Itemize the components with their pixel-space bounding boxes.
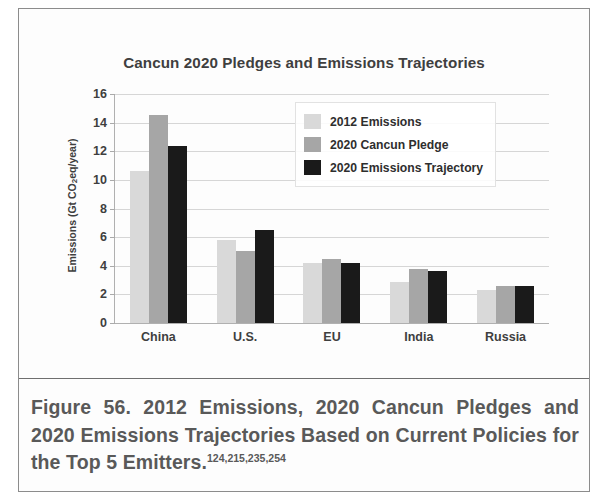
bar (409, 269, 428, 323)
bar (428, 271, 447, 323)
legend-label-cancun-pledge: 2020 Cancun Pledge (330, 138, 449, 152)
bar-group: China (115, 94, 202, 323)
caption-divider (19, 378, 589, 379)
legend-item-cancun-pledge: 2020 Cancun Pledge (304, 133, 483, 156)
x-axis-tick-label: U.S. (202, 323, 289, 344)
bar-group: U.S. (202, 94, 289, 323)
legend-item-emissions-trajectory: 2020 Emissions Trajectory (304, 156, 483, 179)
bar (341, 263, 360, 323)
y-axis-tick-label: 16 (93, 87, 107, 101)
chart-title: Cancun 2020 Pledges and Emissions Trajec… (19, 54, 589, 71)
legend-swatch-2012-emissions (304, 114, 321, 129)
bar (217, 240, 236, 323)
bar (322, 259, 341, 323)
bar (496, 286, 515, 323)
y-axis-tick-label: 10 (93, 173, 107, 187)
x-axis-tick-label: Russia (462, 323, 549, 344)
y-axis-tick-label: 0 (100, 316, 107, 330)
y-axis-title-suffix: eq/year) (66, 139, 78, 179)
legend-item-2012-emissions: 2012 Emissions (304, 110, 483, 133)
y-axis-tick-label: 12 (93, 144, 107, 158)
x-axis-tick-label: EU (289, 323, 376, 344)
bar (236, 251, 255, 323)
bar (515, 286, 534, 323)
y-axis-title-prefix: Emissions (Gt CO (66, 183, 78, 272)
legend-label-2012-emissions: 2012 Emissions (330, 115, 421, 129)
legend-swatch-emissions-trajectory (304, 160, 321, 175)
bar (303, 263, 322, 323)
y-axis-tick-label: 2 (100, 287, 107, 301)
figure-caption-text: Figure 56. 2012 Emissions, 2020 Cancun P… (31, 396, 579, 473)
x-axis-tick-label: China (115, 323, 202, 344)
x-axis-tick-label: India (375, 323, 462, 344)
y-axis-tick-label: 6 (100, 230, 107, 244)
chart-container: Cancun 2020 Pledges and Emissions Trajec… (19, 9, 589, 378)
legend-swatch-cancun-pledge (304, 137, 321, 152)
figure-frame: Cancun 2020 Pledges and Emissions Trajec… (18, 8, 590, 492)
y-axis-title-subscript: 2 (70, 179, 79, 183)
y-axis-title: Emissions (Gt CO2eq/year) (66, 106, 79, 306)
bar (149, 115, 168, 323)
y-axis-tick-label: 4 (100, 259, 107, 273)
bar (168, 146, 187, 323)
chart-legend: 2012 Emissions 2020 Cancun Pledge 2020 E… (295, 102, 496, 187)
y-axis-tick-label: 8 (100, 202, 107, 216)
figure-caption-citations: 124,215,235,254 (207, 452, 286, 464)
bar (390, 282, 409, 324)
legend-label-emissions-trajectory: 2020 Emissions Trajectory (330, 161, 483, 175)
figure-caption: Figure 56. 2012 Emissions, 2020 Cancun P… (31, 394, 579, 477)
bar (255, 230, 274, 323)
y-axis-tick-label: 14 (93, 116, 107, 130)
bar (477, 290, 496, 323)
bar (130, 171, 149, 323)
